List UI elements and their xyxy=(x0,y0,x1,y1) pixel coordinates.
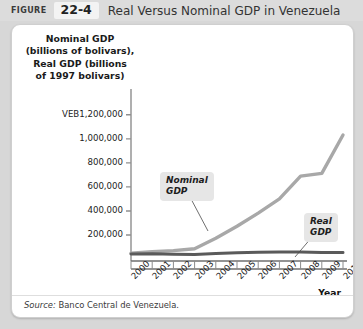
figure-header: FIGURE 22-4 Real Versus Nominal GDP in V… xyxy=(0,0,363,21)
figure-label: FIGURE xyxy=(11,6,47,15)
source-note: Source: Banco Central de Venezuela. xyxy=(24,300,179,310)
annotation-nominal-line-2: GDP xyxy=(166,186,208,197)
annotation-real-line-1: Real xyxy=(310,216,332,227)
y-tick-label: VEB1,200,000 xyxy=(12,109,123,119)
x-axis-title: Year xyxy=(318,287,341,298)
annotation-real-gdp: Real GDP xyxy=(304,213,338,242)
panel-divider xyxy=(12,295,353,296)
y-tick-label: 400,000 xyxy=(12,205,123,215)
chart-panel: Nominal GDP (billions of bolivars), Real… xyxy=(11,24,354,318)
annotation-nominal-gdp: Nominal GDP xyxy=(160,172,214,201)
y-tick-label: 800,000 xyxy=(12,157,123,167)
y-tick-label: 200,000 xyxy=(12,229,123,239)
figure-number-badge: 22-4 xyxy=(54,2,99,19)
y-tick-label: 1,000,000 xyxy=(12,133,123,143)
source-text: Banco Central de Venezuela. xyxy=(56,300,179,310)
source-label: Source: xyxy=(24,300,56,310)
figure-root: FIGURE 22-4 Real Versus Nominal GDP in V… xyxy=(0,0,363,329)
figure-title: Real Versus Nominal GDP in Venezuela xyxy=(108,4,341,18)
annotation-real-line-2: GDP xyxy=(310,227,332,238)
annotation-nominal-line-1: Nominal xyxy=(166,175,208,186)
y-tick-label: 600,000 xyxy=(12,181,123,191)
